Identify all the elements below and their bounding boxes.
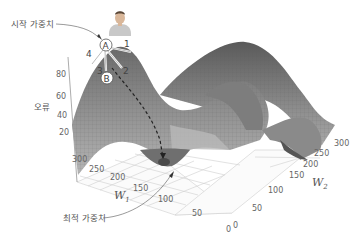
w1-tick-0: 0	[226, 225, 231, 234]
direction-2-label: 2	[123, 66, 129, 76]
svg-text:B: B	[104, 74, 110, 84]
w2-tick-250: 250	[314, 149, 329, 158]
w1-tick-50: 50	[192, 209, 202, 218]
z-tick-20: 20	[59, 128, 69, 137]
optimal-weight-label: 최적 가중치	[63, 213, 106, 223]
w2-axis-label: W2	[312, 176, 328, 191]
w2-tick-200: 200	[303, 160, 318, 169]
point-a: A	[100, 39, 112, 51]
w2-tick-50: 50	[252, 204, 262, 213]
direction-4-label: 4	[86, 49, 92, 59]
floor-grid	[77, 150, 320, 215]
w2-tick-150: 150	[289, 171, 304, 180]
global-minimum-marker	[158, 158, 170, 166]
z-tick-80: 80	[56, 70, 66, 79]
w1-tick-150: 150	[133, 184, 148, 193]
w1-tick-250: 250	[89, 165, 104, 174]
start-weight-annotation: 시작 가중치	[11, 19, 102, 40]
person-icon	[109, 11, 131, 36]
w1-tick-200: 200	[110, 173, 125, 182]
w2-tick-300: 300	[334, 139, 349, 148]
z-tick-40: 40	[57, 111, 67, 120]
start-weight-label: 시작 가중치	[11, 19, 54, 29]
w1-tick-300: 300	[72, 155, 87, 164]
z-axis-label: 오류	[34, 102, 50, 112]
point-b: B	[101, 72, 113, 84]
error-surface	[72, 42, 335, 175]
w2-tick-100: 100	[268, 186, 283, 195]
w2-tick-0: 0	[233, 221, 238, 230]
z-axis: 80 60 40 20 오류	[34, 57, 77, 182]
w1-tick-100: 100	[158, 195, 173, 204]
direction-1-label: 1	[124, 39, 130, 49]
z-tick-60: 60	[56, 92, 66, 101]
gradient-descent-surface-chart: 80 60 40 20 오류 1 2	[0, 0, 360, 246]
svg-text:A: A	[103, 41, 110, 51]
